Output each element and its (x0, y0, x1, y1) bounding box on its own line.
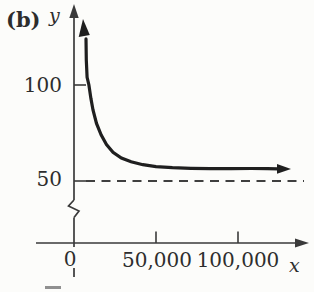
x-tick-label-50000: 50,000 (116, 250, 198, 270)
figure-panel-b: (b) y x 100 50 0 50,000 100,000 (0, 0, 314, 292)
x-axis-label: x (289, 256, 300, 275)
panel-label: (b) (6, 9, 41, 30)
scan-artifact (45, 286, 61, 289)
x-tick-label-100000: 100,000 (194, 250, 282, 270)
y-tick-label-100: 100 (22, 75, 62, 95)
x-tick-label-0: 0 (58, 249, 82, 269)
y-axis-label: y (49, 6, 60, 25)
y-tick-label-50: 50 (22, 169, 62, 189)
